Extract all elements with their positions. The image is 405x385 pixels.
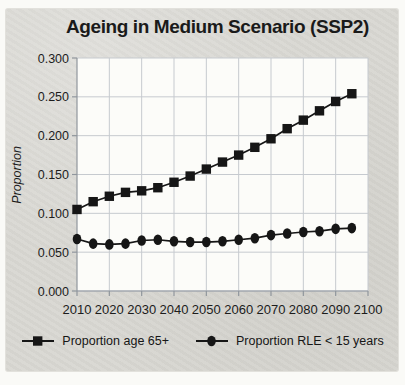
circle-line-marker-icon [195, 334, 229, 348]
square-marker [331, 97, 340, 106]
y-axis-title: Proportion [10, 146, 24, 204]
square-marker [121, 188, 130, 197]
square-marker [266, 134, 275, 143]
y-tick-label: 0.200 [38, 129, 69, 143]
x-tick-label: 2070 [257, 302, 286, 317]
x-tick-label: 2050 [192, 302, 221, 317]
square-marker [218, 157, 227, 166]
y-tick-label: 0.150 [38, 168, 69, 182]
legend-item-age-65: Proportion age 65+ [21, 334, 169, 348]
x-tick-label: 2010 [63, 302, 92, 317]
circle-marker [154, 234, 163, 245]
circle-marker [186, 237, 195, 248]
circle-marker [283, 228, 292, 239]
circle-marker [73, 234, 82, 245]
x-tick-label: 2020 [95, 302, 124, 317]
chart-legend: Proportion age 65+ Proportion RLE < 15 y… [0, 331, 405, 351]
circle-marker [348, 223, 357, 234]
circle-marker [218, 236, 227, 247]
legend-label-age-65: Proportion age 65+ [62, 334, 169, 348]
square-line-marker-icon [21, 334, 55, 348]
circle-marker [267, 230, 276, 241]
circle-marker [251, 233, 260, 244]
square-marker [234, 150, 243, 159]
square-marker [137, 186, 146, 195]
circle-marker [105, 239, 114, 250]
circle-marker [170, 236, 179, 247]
circle-marker [234, 234, 243, 245]
square-marker [88, 197, 97, 206]
circle-marker [315, 226, 324, 237]
x-tick-label: 2080 [289, 302, 318, 317]
square-marker [105, 192, 114, 201]
y-tick-label: 0.300 [38, 52, 69, 66]
square-marker [315, 106, 324, 115]
square-marker [282, 124, 291, 133]
circle-marker [202, 237, 211, 248]
square-marker [299, 115, 308, 124]
square-marker [347, 89, 356, 98]
legend-label-rle: Proportion RLE < 15 years [236, 334, 384, 348]
circle-marker [299, 227, 308, 238]
x-tick-label: 2100 [354, 302, 383, 317]
circle-marker [331, 224, 340, 235]
x-tick-label: 2040 [160, 302, 189, 317]
square-marker [72, 205, 81, 214]
x-tick-label: 2060 [224, 302, 253, 317]
square-marker [169, 178, 178, 187]
line-chart: 0.3000.2500.2000.1500.1000.0500.00020102… [0, 0, 405, 385]
circle-marker [89, 238, 98, 249]
square-marker [202, 164, 211, 173]
square-marker [250, 143, 259, 152]
y-tick-label: 0.000 [38, 285, 69, 299]
square-marker [153, 183, 162, 192]
circle-marker [137, 235, 146, 246]
circle-marker [121, 238, 130, 249]
y-tick-label: 0.050 [38, 246, 69, 260]
y-tick-label: 0.250 [38, 90, 69, 104]
y-tick-label: 0.100 [38, 207, 69, 221]
x-tick-label: 2090 [321, 302, 350, 317]
legend-item-rle: Proportion RLE < 15 years [195, 334, 384, 348]
square-marker [185, 171, 194, 180]
x-tick-label: 2030 [127, 302, 156, 317]
